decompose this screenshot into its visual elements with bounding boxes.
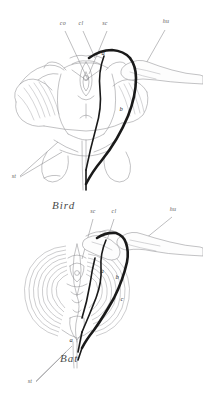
figure-background — [0, 0, 203, 394]
bird-caption: Bird — [52, 199, 75, 211]
bird-label-cl: cl — [79, 20, 84, 26]
bat-label-hu: hu — [170, 206, 177, 212]
bat-label-c: c — [121, 295, 124, 302]
bird-label-co: co — [60, 20, 66, 26]
bird-label-a: a — [101, 49, 104, 56]
bat-caption: Bat — [60, 352, 78, 364]
bat-label-sc: sc — [90, 208, 96, 214]
bird-label-hu: hu — [163, 18, 170, 24]
bird-label-sc: sc — [102, 20, 108, 26]
bat-label-cl: cl — [112, 208, 117, 214]
comparative-anatomy-figure: co cl sc hu st a b Bird — [0, 0, 203, 394]
bird-label-st: st — [12, 173, 17, 179]
bat-label-a: a — [100, 267, 103, 274]
figure-canvas: co cl sc hu st a b Bird — [0, 0, 203, 394]
bat-label-st: st — [28, 378, 33, 384]
bat-label-a-lower: a — [69, 336, 72, 343]
